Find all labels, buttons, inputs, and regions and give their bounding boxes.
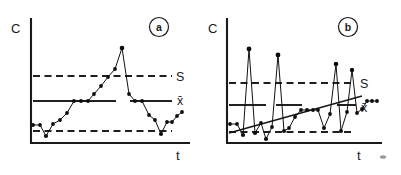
panel-b: C t S x̄ (208, 18, 381, 164)
panel-a-mean-label: x̄ (177, 94, 184, 108)
panel-a-y-axis-label: C (11, 21, 20, 36)
panel-a-badge-letter: a (156, 21, 162, 33)
panel-b-badge: b (339, 18, 358, 37)
panel-b-x-axis-label: t (357, 148, 361, 163)
scan-speck (380, 155, 386, 159)
panel-a-sigma-label: S (176, 70, 184, 84)
panel-b-axes (227, 19, 381, 143)
figure-container: C t S x̄ (0, 0, 401, 175)
panel-b-y-axis-label: C (208, 21, 217, 36)
panel-b-sigma-label: S (360, 77, 368, 91)
two-panel-control-chart: C t S x̄ (0, 0, 401, 175)
panel-a: C t S x̄ (11, 18, 189, 164)
panel-a-series-line (33, 48, 182, 136)
panel-a-x-axis-label: t (176, 148, 180, 163)
panel-b-series-line (230, 49, 377, 139)
panel-a-badge: a (150, 18, 169, 37)
panel-b-badge-letter: b (345, 21, 351, 33)
panel-a-data-markers (31, 46, 184, 138)
